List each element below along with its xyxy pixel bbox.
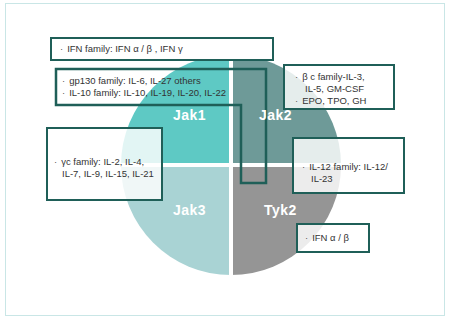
- bullet-icon: ·: [295, 71, 298, 82]
- beta-c-text-1: β c family-IL-3,: [302, 71, 364, 82]
- bullet-icon: ·: [305, 232, 308, 243]
- beta-c-text-3: EPO, TPO, GH: [302, 95, 366, 106]
- quadrant-label-jak1: Jak1: [173, 107, 206, 123]
- bullet-icon: ·: [62, 75, 65, 86]
- ifn-alpha-beta-box: ·IFN α / β: [296, 223, 370, 253]
- bullet-icon: ·: [302, 161, 305, 172]
- bullet-icon: ·: [295, 95, 298, 106]
- gamma-c-text-1: γc family: IL-2, IL-4,: [61, 156, 144, 167]
- bullet-icon: ·: [60, 43, 63, 54]
- gamma-c-text-2: IL-7, IL-9, IL-15, IL-21: [62, 168, 154, 179]
- quadrant-label-jak3: Jak3: [173, 202, 206, 218]
- il12-text-2: IL-23: [311, 173, 333, 184]
- ifn-family-box: ·IFN family: IFN α / β , IFN γ: [50, 37, 274, 61]
- bullet-icon: ·: [62, 87, 65, 98]
- bullet-icon: ·: [54, 156, 57, 167]
- quadrant-label-tyk2: Tyk2: [264, 202, 297, 218]
- ifn-family-text: IFN family: IFN α / β , IFN γ: [67, 43, 182, 54]
- ifn-alpha-beta-text: IFN α / β: [312, 232, 349, 243]
- gp130-family-text-line: ·gp130 family: IL-6, IL-27 others: [62, 75, 201, 87]
- il10-family-text: IL-10 family: IL-10, IL-19, IL-20, IL-22: [69, 87, 226, 98]
- beta-c-text-2: IL-5, GM-CSF: [305, 83, 364, 94]
- beta-c-family-box: ·β c family-IL-3, IL-5, GM-CSF ·EPO, TPO…: [283, 64, 395, 110]
- il12-text-1: IL-12 family: IL-12/: [309, 161, 388, 172]
- gamma-c-family-box: ·γc family: IL-2, IL-4, IL-7, IL-9, IL-1…: [46, 127, 163, 201]
- il10-family-text-line: ·IL-10 family: IL-10, IL-19, IL-20, IL-2…: [62, 87, 226, 99]
- gp130-family-text: gp130 family: IL-6, IL-27 others: [69, 75, 201, 86]
- il12-family-box: ·IL-12 family: IL-12/ IL-23: [292, 137, 405, 194]
